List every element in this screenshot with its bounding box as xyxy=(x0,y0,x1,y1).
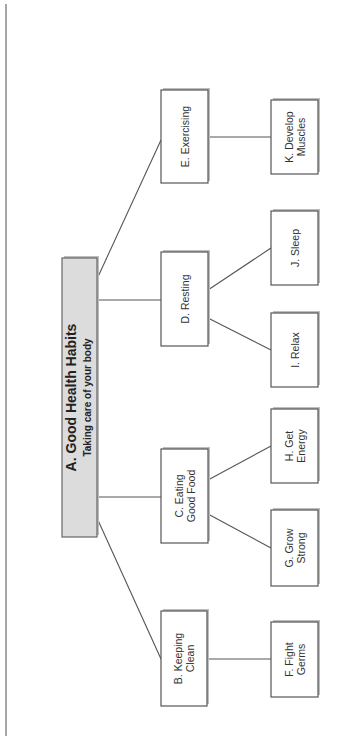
node-label-line: Strong xyxy=(295,532,307,563)
connector-b xyxy=(97,518,161,659)
node-e: E. Exercising xyxy=(161,88,210,183)
node-label-line: H. Get xyxy=(283,431,295,461)
node-h: H. GetEnergy xyxy=(271,407,320,483)
node-label-line: G. Grow xyxy=(283,528,295,568)
node-label-line: Muscles xyxy=(295,118,307,157)
root-subtitle: Taking care of your body xyxy=(82,338,93,457)
connector-i xyxy=(208,318,271,350)
node-g: G. GrowStrong xyxy=(271,508,320,586)
node-b: B. KeepingClean xyxy=(161,609,209,706)
node-d: D. Resting xyxy=(161,250,210,346)
connector-g xyxy=(208,514,271,548)
connector-e xyxy=(97,140,161,279)
connector-j xyxy=(208,248,271,290)
nodes: A. Good Health HabitsTaking care of your… xyxy=(62,88,320,706)
node-label-line: D. Resting xyxy=(179,274,191,323)
node-label-line: Good Food xyxy=(185,470,197,523)
node-k: K. DevelopMuscles xyxy=(271,98,320,174)
node-i: I. Relax xyxy=(271,311,320,387)
connectors xyxy=(97,137,271,659)
health-habits-tree-diagram: A. Good Health HabitsTaking care of your… xyxy=(0,0,338,736)
node-label-line: F. Fight xyxy=(283,642,295,677)
node-label-line: B. Keeping xyxy=(172,633,184,685)
node-label-line: E. Exercising xyxy=(179,106,191,167)
node-label-line: Germs xyxy=(295,644,307,676)
node-j: J. Sleep xyxy=(271,209,320,285)
connector-h xyxy=(208,446,271,480)
root-title: A. Good Health Habits xyxy=(63,323,79,471)
node-c: C. EatingGood Food xyxy=(161,447,210,543)
node-label-line: J. Sleep xyxy=(289,229,301,267)
node-label-line: I. Relax xyxy=(289,331,301,367)
node-label-line: K. Develop xyxy=(283,111,295,163)
node-a-root: A. Good Health HabitsTaking care of your… xyxy=(62,256,99,537)
node-label-line: Energy xyxy=(295,429,307,463)
node-label-line: Clean xyxy=(184,645,196,673)
node-f: F. FightGerms xyxy=(271,620,320,697)
node-label-line: C. Eating xyxy=(173,474,185,517)
